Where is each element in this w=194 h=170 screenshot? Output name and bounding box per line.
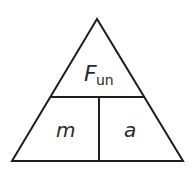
bottom-right-label: a: [124, 118, 136, 142]
formula-triangle: F un m a: [0, 0, 194, 170]
triangle-outline: [12, 19, 183, 161]
top-label-subscript: un: [96, 72, 114, 88]
bottom-left-label: m: [56, 118, 75, 142]
